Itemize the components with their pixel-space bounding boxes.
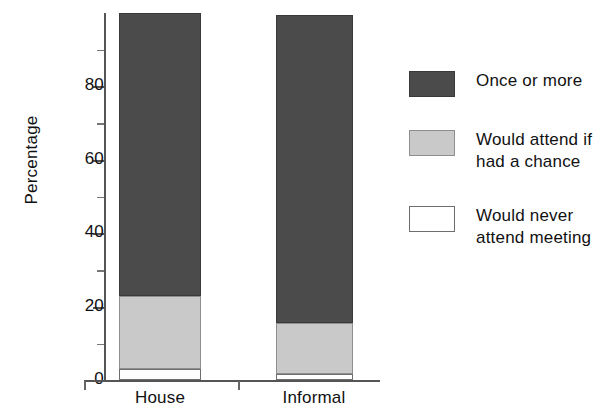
x-axis-line: [84, 380, 380, 382]
x-axis-label-informal: Informal: [264, 388, 364, 408]
x-axis-tick-middle: [238, 381, 240, 390]
y-axis-line: [104, 13, 106, 381]
true-label-40: 40: [26, 222, 104, 242]
bar-informal-segment-would-attend[interactable]: [276, 323, 353, 374]
true-minor-30: [97, 270, 104, 272]
legend-swatch-would-never: [409, 206, 455, 232]
true-minor-50: [97, 197, 104, 199]
true-label-0: 0: [26, 369, 104, 389]
true-minor-90: [97, 50, 104, 52]
legend-swatch-once-or-more: [409, 71, 455, 97]
legend-label-would-attend: Would attend if had a chance: [476, 129, 592, 173]
legend-label-would-never: Would never attend meeting: [476, 205, 591, 249]
bar-informal[interactable]: [276, 15, 353, 380]
stacked-bar-chart: Percentage 80 60 4: [0, 0, 611, 420]
legend-swatch-would-attend: [409, 130, 455, 156]
true-minor-10: [97, 344, 104, 346]
bar-house-segment-would-never[interactable]: [119, 369, 201, 380]
y-axis-true: 80 60 40 20 0: [0, 0, 104, 420]
legend-label-once-or-more: Once or more: [476, 70, 582, 92]
bar-informal-segment-would-never[interactable]: [276, 374, 353, 380]
legend-item-would-attend[interactable]: Would attend if had a chance: [409, 129, 609, 173]
bar-informal-segment-once-or-more[interactable]: [276, 15, 353, 323]
legend-item-would-never[interactable]: Would never attend meeting: [409, 205, 609, 249]
true-label-80: 80: [26, 75, 104, 95]
chart-legend: Once or more Would attend if had a chanc…: [409, 70, 609, 281]
bar-house-segment-once-or-more[interactable]: [119, 13, 201, 296]
bar-house[interactable]: [119, 13, 201, 380]
x-axis-tick-left: [84, 381, 86, 390]
true-minor-70: [97, 123, 104, 125]
x-axis-label-house: House: [110, 388, 210, 408]
true-label-20: 20: [26, 296, 104, 316]
legend-item-once-or-more[interactable]: Once or more: [409, 70, 609, 97]
bar-house-segment-would-attend[interactable]: [119, 296, 201, 369]
true-label-60: 60: [26, 149, 104, 169]
